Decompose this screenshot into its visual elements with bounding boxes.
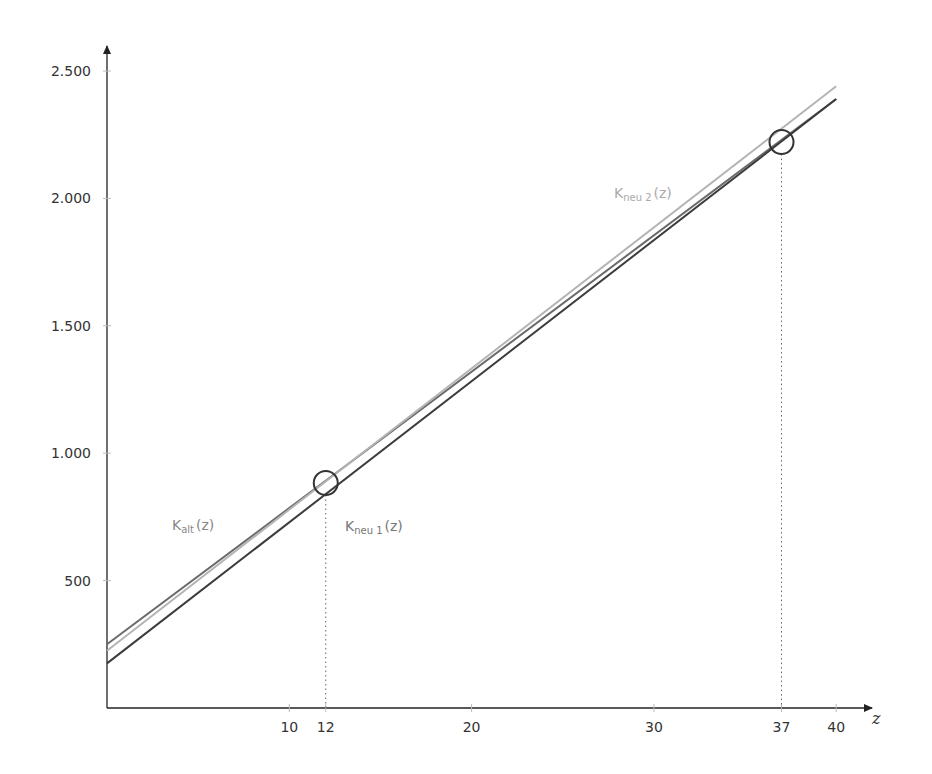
- break-even-chart: z 101220303740 5001.0001.5002.0002.500 K…: [0, 0, 932, 774]
- x-tick-label: 40: [827, 719, 845, 735]
- series-line: [107, 99, 836, 644]
- label-k-alt: Kalt(z): [172, 517, 214, 535]
- drop-lines: [326, 154, 782, 708]
- intersection-circle: [314, 471, 338, 495]
- x-axis-label: z: [871, 709, 881, 728]
- y-tick-label: 1.500: [51, 318, 91, 334]
- series-line: [107, 86, 836, 650]
- x-tick-label: 12: [317, 719, 335, 735]
- y-tick-label: 500: [64, 573, 91, 589]
- y-tick-label: 2.000: [51, 190, 91, 206]
- series-line: [107, 99, 836, 663]
- y-tick-label: 2.500: [51, 63, 91, 79]
- y-ticks: 5001.0001.5002.0002.500: [51, 63, 111, 589]
- x-tick-label: 30: [645, 719, 663, 735]
- label-k-neu1: Kneu 1(z): [345, 518, 403, 536]
- x-tick-label: 10: [280, 719, 298, 735]
- series-labels: Kalt(z) Kneu 1(z) Kneu 2(z): [172, 185, 672, 536]
- x-tick-label: 37: [773, 719, 791, 735]
- x-tick-label: 20: [463, 719, 481, 735]
- y-tick-label: 1.000: [51, 445, 91, 461]
- series-lines: [107, 86, 836, 663]
- label-k-neu2: Kneu 2(z): [614, 185, 672, 203]
- axes: z: [107, 46, 881, 728]
